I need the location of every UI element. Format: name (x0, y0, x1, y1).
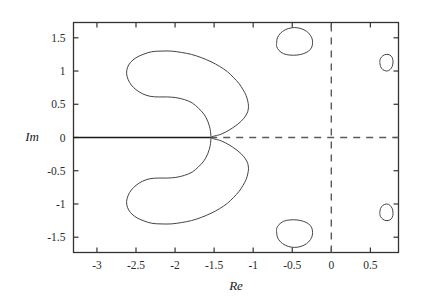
y-tick-label: -0.5 (47, 165, 65, 177)
chart-canvas: -3-2.5-2-1.5-1-0.500.5 1.510.50-0.5-1-1.… (0, 0, 429, 299)
y-axis-title: Im (24, 129, 39, 144)
x-tick-label: -2.5 (127, 259, 145, 271)
y-tick-label: -1 (56, 198, 66, 210)
x-tick-label: -2 (170, 259, 180, 271)
x-axis-title: Re (228, 278, 243, 293)
y-tick-label: -1.5 (47, 231, 65, 243)
upper-right-oval-region (380, 54, 393, 71)
y-tick-label: 0.5 (51, 98, 66, 110)
y-tick-label: 1.5 (51, 32, 66, 44)
y-tick-label: 0 (60, 132, 66, 144)
x-tick-label: -1.5 (205, 259, 223, 271)
x-axis-tick-labels: -3-2.5-2-1.5-1-0.500.5 (92, 259, 378, 271)
x-tick-label: -0.5 (283, 259, 301, 271)
y-tick-label: 1 (60, 65, 66, 77)
x-tick-label: -1 (248, 259, 258, 271)
x-tick-label: -3 (92, 259, 102, 271)
x-tick-label: 0.5 (363, 259, 378, 271)
y-axis-tick-labels: 1.510.50-0.5-1-1.5 (47, 32, 65, 243)
complex-plane-stability-plot: -3-2.5-2-1.5-1-0.500.5 1.510.50-0.5-1-1.… (0, 0, 429, 299)
lower-right-oval-region (380, 204, 393, 221)
lower-blob-region (276, 220, 312, 248)
reference-lines-group (74, 23, 399, 253)
x-tick-label: 0 (328, 259, 334, 271)
upper-blob-region (276, 28, 312, 56)
